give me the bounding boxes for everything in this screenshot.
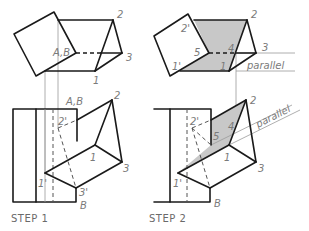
label-2-prime: 2'	[190, 116, 199, 127]
label-3-prime: 3'	[79, 187, 88, 198]
label-parallel: parallel	[246, 60, 284, 71]
label-1-prime: 1'	[38, 178, 47, 189]
prism-edge	[112, 100, 122, 162]
prism-edge	[229, 145, 256, 162]
prism-edge	[95, 20, 113, 71]
prism-edge	[95, 145, 122, 162]
label-2: 2	[251, 9, 257, 20]
label-2: 2	[114, 90, 120, 101]
step1-caption: STEP 1	[11, 213, 48, 224]
block-outline	[154, 188, 210, 202]
prism-edge	[247, 20, 256, 53]
hidden-edge	[192, 128, 210, 188]
drawing-canvas: A,B 2 3 1 A,B 2 2' 1 3 1' 3' B STEP 1	[0, 0, 309, 231]
label-1: 1	[220, 61, 226, 72]
label-3: 3	[126, 52, 132, 63]
label-3: 3	[262, 42, 268, 53]
label-2-prime: 2'	[58, 116, 67, 127]
step2-top-view: 2' 2 5 4 3 1' 1 parallel	[154, 9, 295, 120]
shaded-plane	[178, 100, 246, 173]
label-4: 4	[228, 121, 234, 132]
prism-edge	[210, 162, 256, 188]
label-b: B	[80, 200, 87, 211]
label-2: 2	[117, 9, 123, 20]
label-4: 4	[228, 43, 234, 54]
step1-front-view: A,B 2 2' 1 3 1' 3' B	[13, 90, 129, 211]
prism-edge	[95, 100, 112, 145]
prism-edge	[45, 173, 76, 188]
rotated-square-face	[14, 12, 76, 76]
label-3: 3	[123, 163, 129, 174]
label-2: 2	[250, 95, 256, 106]
prism-edge	[76, 162, 122, 188]
block-outline	[154, 109, 211, 145]
label-1: 1	[93, 75, 99, 86]
label-ab: A,B	[65, 96, 83, 107]
prism-edge	[95, 53, 122, 71]
step2-caption: STEP 2	[149, 213, 186, 224]
step2-front-view: 2 2' 5 4 1 3 1' B parallel	[154, 95, 300, 209]
prism-edge	[113, 20, 122, 53]
label-1-prime: 1'	[172, 61, 181, 72]
label-5: 5	[194, 47, 200, 58]
prism-edge	[178, 173, 210, 188]
label-3: 3	[258, 163, 264, 174]
label-ab: A,B	[52, 47, 70, 58]
prism-edge	[178, 145, 229, 173]
label-b: B	[214, 198, 221, 209]
label-2-prime: 2'	[181, 23, 190, 34]
label-1: 1	[224, 152, 230, 163]
label-1-prime: 1'	[173, 178, 182, 189]
prism-edge	[246, 100, 256, 162]
label-5: 5	[213, 131, 219, 142]
label-1: 1	[90, 152, 96, 163]
